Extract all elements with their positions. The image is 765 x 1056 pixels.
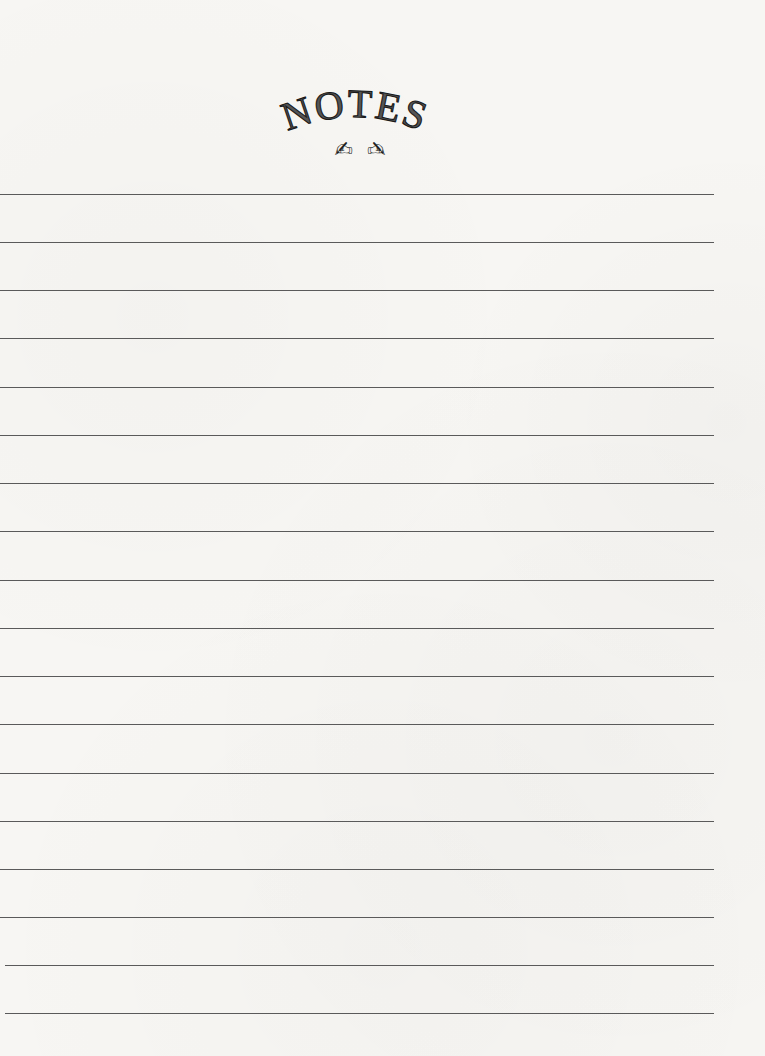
ruled-line bbox=[0, 483, 714, 484]
ruled-line bbox=[0, 531, 714, 532]
writing-hand-icon: ✍ bbox=[367, 139, 385, 161]
hand-icons: ✍ ✍ bbox=[310, 134, 410, 166]
ruled-line bbox=[0, 628, 714, 629]
ruled-line bbox=[5, 1013, 714, 1014]
ruled-line bbox=[0, 242, 714, 243]
notes-header: NOTES ✍ ✍ bbox=[240, 90, 470, 180]
ruled-line bbox=[0, 194, 714, 195]
title-text: NOTES bbox=[276, 90, 435, 140]
ruled-line bbox=[0, 917, 714, 918]
ruled-line bbox=[5, 965, 714, 966]
ruled-line bbox=[0, 290, 714, 291]
ruled-line bbox=[0, 676, 714, 677]
ruled-line bbox=[0, 869, 714, 870]
ruled-line bbox=[0, 773, 714, 774]
writing-hand-icon: ✍ bbox=[335, 139, 353, 161]
ruled-line bbox=[0, 338, 714, 339]
ruled-line bbox=[0, 387, 714, 388]
ruled-line bbox=[0, 580, 714, 581]
ruled-line bbox=[0, 435, 714, 436]
ruled-line bbox=[0, 821, 714, 822]
ruled-line bbox=[0, 724, 714, 725]
